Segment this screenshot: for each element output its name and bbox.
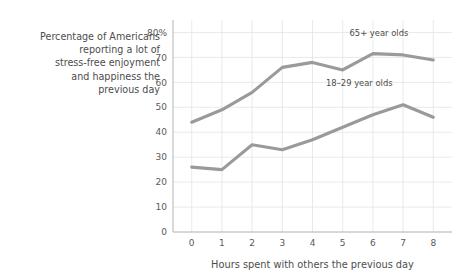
x-tick-label: 6: [370, 238, 376, 248]
x-tick-label: 4: [310, 238, 316, 248]
y-tick-label: 30: [156, 152, 168, 162]
y-tick-label: 80%: [147, 28, 167, 38]
x-tick-label: 1: [219, 238, 225, 248]
y-tick-label: 60: [156, 78, 168, 88]
gridlines: [173, 20, 452, 232]
chart-svg: 01020304050607080% 012345678 65+ year ol…: [0, 0, 474, 275]
x-tick-label: 5: [340, 238, 346, 248]
x-tick-label: 2: [249, 238, 255, 248]
y-axis-ticks: 01020304050607080%: [147, 28, 167, 238]
chart-figure: Percentage of Americans reporting a lot …: [0, 0, 474, 275]
y-tick-label: 70: [156, 53, 168, 63]
line-chart-plot: 01020304050607080% 012345678 65+ year ol…: [0, 0, 474, 275]
x-axis-ticks: 012345678: [189, 238, 437, 248]
x-tick-label: 3: [279, 238, 285, 248]
series-label: 65+ year olds: [350, 28, 409, 38]
y-tick-label: 10: [156, 202, 168, 212]
y-tick-label: 40: [156, 127, 168, 137]
y-tick-label: 0: [161, 227, 167, 237]
x-tick-label: 0: [189, 238, 195, 248]
x-axis-title: Hours spent with others the previous day: [211, 259, 414, 270]
x-tick-label: 7: [400, 238, 406, 248]
y-tick-label: 20: [156, 177, 168, 187]
x-tick-label: 8: [430, 238, 436, 248]
y-tick-label: 50: [156, 102, 168, 112]
series-label: 18–29 year olds: [326, 78, 393, 88]
